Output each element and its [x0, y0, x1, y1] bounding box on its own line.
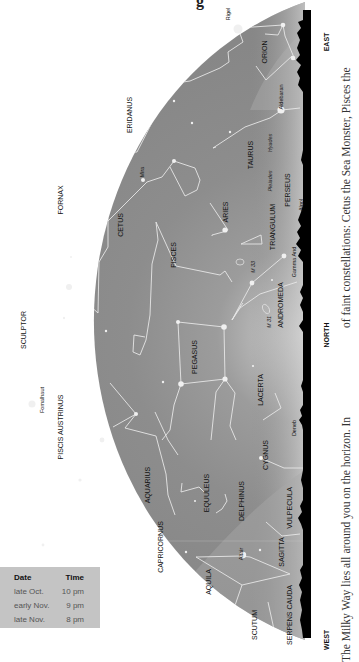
body-text-col1: The Milky Way lies all around you on the… [340, 417, 353, 662]
constellation-label: SCUTUM [251, 610, 258, 640]
constellation-label: ANDROMEDA [277, 282, 284, 328]
header-time: Time [65, 573, 84, 582]
constellation-label: EQUULEUS [203, 473, 211, 512]
row-date: late Oct. [14, 587, 44, 596]
constellation-label: ORION [261, 41, 268, 64]
star-label: Pleiades [267, 170, 273, 191]
constellation-label: ERIDANUS [126, 97, 133, 134]
direction-west: WEST [323, 629, 330, 650]
constellation-label: PERSEUS [284, 173, 291, 207]
row-time: 10 pm [62, 587, 84, 596]
row-date: late Nov. [14, 615, 45, 624]
constellation-label: LACERTA [257, 374, 264, 406]
constellation-label: PISCIS AUSTRINUS [57, 394, 64, 459]
constellation-label: VULPECULA [286, 487, 293, 529]
table-row: late Nov. 8 pm [14, 615, 84, 626]
constellation-label: SERPENS CAUDA [286, 585, 293, 645]
constellation-label: AQUILA [205, 569, 213, 595]
star-label: M 33 [250, 260, 256, 273]
constellation-label: CYGNUS [262, 440, 269, 470]
rigel-star [234, 25, 243, 34]
star-chart: g [0, 0, 359, 662]
constellation-label: TRIANGULUM [269, 204, 276, 250]
direction-east: EAST [323, 32, 330, 51]
constellation-label: CETUS [117, 213, 124, 237]
row-time: 8 pm [66, 615, 84, 624]
row-date: early Nov. [14, 601, 49, 610]
table-row: late Oct. 10 pm [14, 587, 84, 598]
table-header: Date Time [14, 573, 84, 584]
header-date: Date [14, 573, 31, 582]
constellation-label: DELPHINUS [238, 481, 245, 521]
star-label: Altair [238, 548, 244, 561]
constellation-label: CAPRICORNUS [157, 521, 164, 573]
star-label: Algol [298, 199, 304, 211]
star-label: Mira [139, 166, 145, 178]
title-fragment: g [196, 0, 204, 10]
star-label: Gamma And [291, 247, 297, 278]
viewing-time-table: Date Time late Oct. 10 pm early Nov. 9 p… [0, 567, 100, 628]
star-label: Aldebaran [278, 84, 284, 109]
constellation-label: AQUARIUS [144, 466, 152, 503]
star-label: Rigel [225, 8, 231, 21]
table-row: early Nov. 9 pm [14, 601, 84, 612]
constellation-label: SCULPTOR [20, 311, 27, 349]
fomalhaut-star [29, 401, 36, 408]
row-time: 9 pm [66, 601, 84, 610]
star-label: Hyades [267, 133, 273, 152]
constellation-label: PEGASUS [191, 340, 198, 374]
star-label: M 31 [266, 316, 272, 328]
constellation-label: SAGITTA [278, 537, 285, 567]
star-label: Fomalhaut [39, 387, 45, 413]
star-label: Deneb [291, 420, 297, 436]
direction-north: NORTH [323, 323, 330, 348]
constellation-label: FORNAX [57, 185, 64, 215]
constellation-label: TAURUS [247, 141, 254, 170]
constellation-label: ARIES [222, 201, 229, 222]
constellation-label: PISCES [170, 242, 177, 268]
body-text-col2: of faint constellations: Cetus the Sea M… [340, 68, 353, 328]
